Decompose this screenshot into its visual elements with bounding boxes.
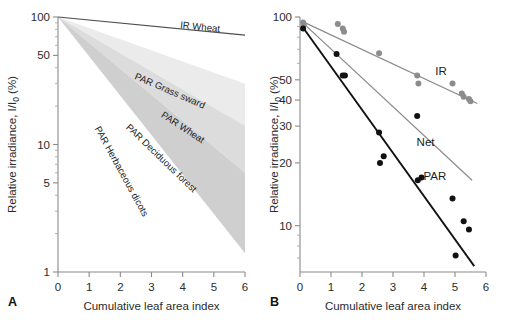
series-label-par: PAR bbox=[423, 170, 446, 182]
y-tick-label: 100 bbox=[31, 11, 50, 23]
data-point-par bbox=[334, 51, 340, 57]
x-tick-label: 3 bbox=[390, 281, 396, 293]
data-point-par bbox=[414, 113, 420, 119]
data-point-par bbox=[377, 160, 383, 166]
panel-b-plot: 10203040501000123456Cumulative leaf area… bbox=[264, 0, 527, 320]
data-point-ir bbox=[450, 81, 456, 87]
x-tick-label: 5 bbox=[452, 281, 458, 293]
data-point-par bbox=[342, 72, 348, 78]
x-tick-label: 0 bbox=[55, 281, 61, 293]
series-label-ir: IR bbox=[435, 65, 447, 77]
x-tick-label: 0 bbox=[297, 281, 303, 293]
y-tick-label: 10 bbox=[37, 139, 50, 151]
data-point-ir bbox=[461, 94, 467, 100]
fit-lines bbox=[302, 21, 478, 266]
x-tick-label: 5 bbox=[211, 281, 217, 293]
y-tick-label: 5 bbox=[44, 177, 50, 189]
y-tick-label: 20 bbox=[279, 157, 292, 169]
data-points bbox=[300, 20, 473, 259]
x-tick-label: 4 bbox=[179, 281, 186, 293]
y-tick-label: 50 bbox=[279, 74, 292, 86]
data-point-par bbox=[381, 153, 387, 159]
x-tick-label: 1 bbox=[328, 281, 334, 293]
data-point-ir bbox=[335, 21, 341, 27]
x-tick-label: 3 bbox=[148, 281, 154, 293]
panel-b: 10203040501000123456Cumulative leaf area… bbox=[264, 0, 527, 320]
x-tick-label: 6 bbox=[242, 281, 248, 293]
x-tick-label: 1 bbox=[86, 281, 92, 293]
y-tick-label: 10 bbox=[279, 220, 292, 232]
figure-root: 1510501000123456Cumulative leaf area ind… bbox=[0, 0, 527, 320]
data-point-par bbox=[466, 226, 472, 232]
data-point-ir bbox=[341, 29, 347, 35]
data-point-par bbox=[461, 218, 467, 224]
data-point-ir bbox=[414, 72, 420, 78]
x-tick-label: 2 bbox=[359, 281, 365, 293]
y-tick-label: 1 bbox=[44, 266, 50, 278]
fit-line-net bbox=[302, 22, 473, 181]
y-axis-title: Relative irradiance, I/I0 (%) bbox=[6, 76, 21, 213]
data-point-par bbox=[300, 26, 306, 32]
x-axis-title: Cumulative leaf area index bbox=[83, 300, 219, 312]
panel-letter-a: A bbox=[8, 295, 17, 309]
x-tick-label: 2 bbox=[117, 281, 123, 293]
series-label-net: Net bbox=[417, 136, 436, 148]
y-tick-label: 100 bbox=[273, 11, 292, 23]
wedges bbox=[58, 17, 245, 253]
data-point-ir bbox=[468, 98, 474, 104]
data-point-ir bbox=[376, 50, 382, 56]
x-axis-title: Cumulative leaf area index bbox=[325, 300, 461, 312]
data-point-par bbox=[450, 195, 456, 201]
x-tick-label: 6 bbox=[483, 281, 489, 293]
x-tick-label: 4 bbox=[421, 281, 428, 293]
line-label-ir-wheat: IR Wheat bbox=[180, 19, 221, 34]
data-point-ir bbox=[415, 81, 421, 87]
panel-a-plot: 1510501000123456Cumulative leaf area ind… bbox=[0, 0, 263, 320]
data-point-par bbox=[453, 252, 459, 258]
y-tick-label: 30 bbox=[279, 120, 292, 132]
data-point-par bbox=[376, 129, 382, 135]
panel-a: 1510501000123456Cumulative leaf area ind… bbox=[0, 0, 263, 320]
y-tick-label: 50 bbox=[37, 49, 50, 61]
panel-letter-b: B bbox=[270, 295, 279, 309]
